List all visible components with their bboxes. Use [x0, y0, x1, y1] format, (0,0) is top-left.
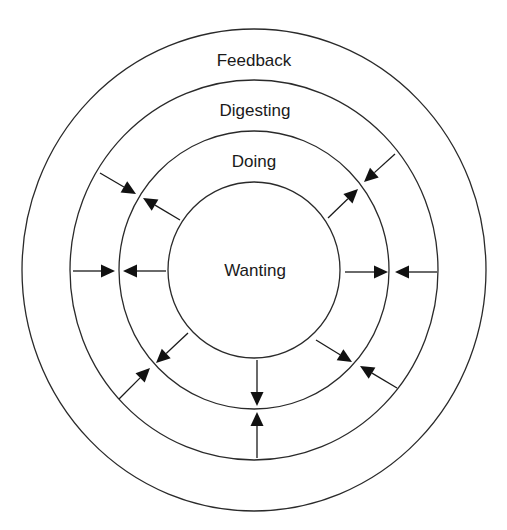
arrowhead-icon — [143, 198, 158, 211]
arrow-shaft — [316, 340, 340, 355]
arrow-lower-right-inner — [316, 340, 352, 362]
arrow-upper-left-inner — [143, 198, 180, 220]
concentric-circles-diagram: Feedback Digesting Doing Wanting — [0, 0, 507, 530]
arrow-lower-left-inner — [156, 333, 188, 363]
arrow-upper-right-inner — [328, 189, 358, 218]
diagram-canvas: Feedback Digesting Doing Wanting — [0, 0, 507, 530]
arrow-lower-left-outer — [119, 368, 150, 399]
arrowhead-icon — [374, 266, 388, 279]
arrow-lower-right-outer — [360, 366, 397, 388]
arrow-shaft — [328, 199, 348, 218]
label-feedback: Feedback — [217, 51, 292, 70]
arrow-shaft — [119, 378, 140, 399]
arrow-right-outer — [395, 266, 437, 279]
arrow-shaft — [155, 205, 180, 220]
arrowhead-icon — [121, 181, 136, 194]
arrow-shaft — [100, 173, 124, 187]
arrows-layer — [73, 154, 437, 458]
arrow-bottom-inner — [251, 360, 264, 406]
arrow-upper-right-outer — [364, 154, 395, 182]
arrowhead-icon — [101, 265, 115, 278]
label-digesting: Digesting — [220, 101, 291, 120]
labels-layer: Feedback Digesting Doing Wanting — [217, 51, 292, 280]
arrow-shaft — [374, 154, 395, 173]
arrow-shaft — [166, 333, 188, 353]
arrowhead-icon — [395, 266, 409, 279]
label-doing: Doing — [232, 152, 276, 171]
arrowhead-icon — [360, 366, 375, 379]
arrowhead-icon — [251, 392, 264, 406]
arrow-left-inner — [123, 265, 166, 278]
arrowhead-icon — [337, 349, 352, 362]
arrow-right-inner — [345, 266, 388, 279]
arrowhead-icon — [251, 412, 264, 426]
label-wanting: Wanting — [224, 261, 286, 280]
arrow-bottom-outer — [251, 412, 264, 458]
arrow-upper-left-outer — [100, 173, 136, 194]
arrowhead-icon — [123, 265, 137, 278]
arrow-shaft — [372, 373, 397, 388]
arrow-left-outer — [73, 265, 115, 278]
